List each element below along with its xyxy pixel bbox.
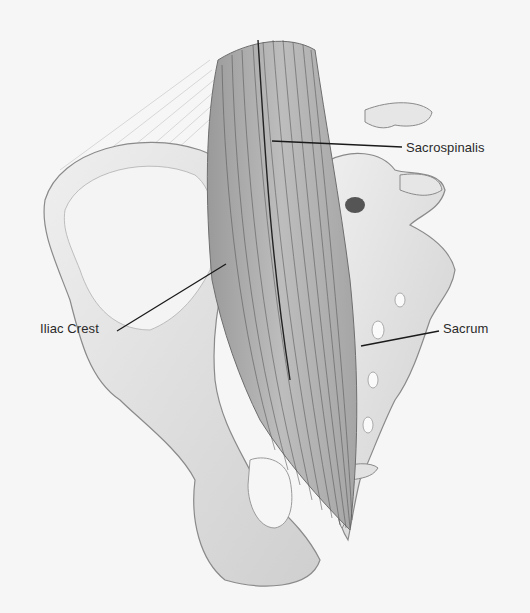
label-iliac-crest: Iliac Crest (40, 321, 99, 336)
vertebra-hole (345, 197, 365, 213)
label-sacrum: Sacrum (443, 321, 488, 336)
label-sacrospinalis: Sacrospinalis (406, 140, 485, 155)
vertebra-process-upper (365, 103, 432, 128)
vertebra-process-lower (400, 174, 442, 195)
pelvis-drawing (0, 0, 530, 613)
anatomy-illustration: Sacrospinalis Iliac Crest Sacrum (0, 0, 530, 613)
